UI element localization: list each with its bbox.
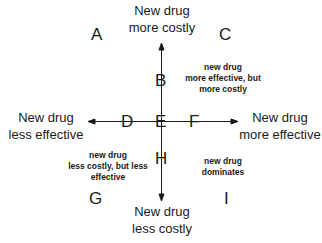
cell-b: B: [155, 72, 166, 89]
right-axis-label: New drug more effective: [230, 110, 322, 143]
left-axis-label-line-2: less effective: [0, 127, 96, 144]
note-upper-right-line-3: more costly: [179, 84, 267, 95]
note-upper-right-line-1: new drug: [179, 62, 267, 73]
top-axis-label-line-2: more costly: [112, 20, 212, 37]
note-lower-left-line-2: less costly, but less: [63, 161, 153, 172]
note-lower-right: new drug dominates: [193, 156, 253, 178]
bottom-axis-label-line-1: New drug: [112, 204, 212, 221]
left-axis-label-line-1: New drug: [0, 110, 96, 127]
left-axis-label: New drug less effective: [0, 110, 96, 143]
right-axis-label-line-1: New drug: [230, 110, 322, 127]
cell-f: F: [189, 113, 199, 130]
note-lower-left-line-3: effective: [63, 172, 153, 183]
top-axis-label-line-1: New drug: [112, 3, 212, 20]
cell-i: I: [224, 190, 229, 207]
note-upper-right: new drug more effective, but more costly: [179, 62, 267, 95]
right-axis-label-line-2: more effective: [230, 127, 322, 144]
note-lower-left: new drug less costly, but less effective: [63, 150, 153, 183]
note-lower-left-line-1: new drug: [63, 150, 153, 161]
note-upper-right-line-2: more effective, but: [179, 73, 267, 84]
arrow-down-icon: [159, 194, 164, 201]
note-lower-right-line-2: dominates: [193, 167, 253, 178]
cell-c: C: [219, 26, 231, 43]
cell-g: G: [89, 190, 102, 207]
cell-a: A: [91, 26, 102, 43]
cell-h: H: [155, 150, 167, 167]
arrow-up-icon: [159, 43, 164, 50]
bottom-axis-label: New drug less costly: [112, 204, 212, 237]
top-axis-label: New drug more costly: [112, 3, 212, 36]
cell-e: E: [155, 113, 166, 130]
cell-d: D: [121, 113, 133, 130]
bottom-axis-label-line-2: less costly: [112, 221, 212, 238]
note-lower-right-line-1: new drug: [193, 156, 253, 167]
